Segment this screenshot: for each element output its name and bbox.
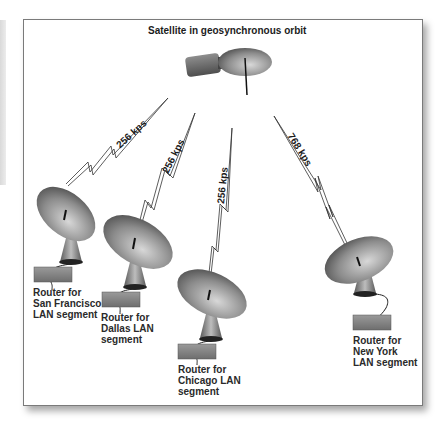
label-sf: Router for San Francisco LAN segment bbox=[33, 287, 101, 320]
label-chicago: Router for Chicago LAN segment bbox=[178, 364, 241, 397]
router-icon bbox=[102, 292, 140, 307]
label-newyork: Router for New York LAN segment bbox=[353, 335, 417, 368]
router-icon bbox=[178, 344, 216, 359]
router-icon bbox=[353, 315, 391, 330]
dish-dallas bbox=[94, 204, 182, 314]
link-chicago bbox=[208, 128, 232, 283]
router-icon bbox=[34, 267, 72, 282]
dish-chicago bbox=[170, 259, 255, 365]
label-dallas: Router for Dallas LAN segment bbox=[101, 312, 154, 345]
satellite-icon bbox=[185, 48, 272, 95]
dish-sf bbox=[26, 176, 105, 290]
dish-newyork bbox=[318, 227, 400, 330]
page-title: Satellite in geosynchronous orbit bbox=[148, 25, 306, 36]
